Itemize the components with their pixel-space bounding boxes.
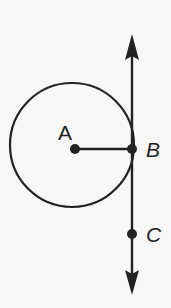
label-a: A [58, 121, 72, 144]
label-b: B [146, 138, 160, 161]
label-c: C [146, 223, 162, 246]
geometry-diagram: A B C [0, 0, 171, 308]
point-c [127, 229, 137, 239]
point-a [70, 144, 80, 154]
point-b [127, 144, 137, 154]
